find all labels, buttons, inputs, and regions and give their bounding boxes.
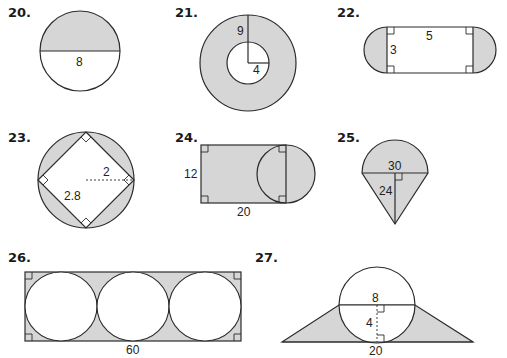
chord-label: 8 [372, 291, 379, 305]
circle-1 [25, 272, 97, 341]
rectangle-fill [201, 145, 286, 203]
circle-2 [97, 272, 169, 341]
problem-20: 20. 8 [8, 5, 120, 91]
problem-21: 21. 9 4 [175, 5, 296, 111]
problem-number: 22. [337, 5, 360, 20]
shaded-semicircle [40, 11, 120, 51]
geometry-figures: 20. 8 21. 9 4 22. 5 3 23. 2 2.8 [0, 0, 507, 358]
inner-radius-label: 4 [253, 63, 260, 77]
width-label: 20 [237, 205, 251, 219]
height-label: 4 [366, 316, 373, 330]
left-semicircle [364, 27, 387, 73]
circle-3 [169, 272, 241, 341]
problem-number: 26. [8, 250, 31, 265]
diameter-label: 8 [76, 55, 83, 69]
problem-number: 27. [255, 250, 278, 265]
problem-number: 24. [175, 130, 198, 145]
problem-27: 27. 8 4 20 [255, 250, 473, 358]
problem-23: 23. 2 2.8 [8, 130, 134, 228]
side-label: 2.8 [64, 189, 81, 203]
problem-25: 25. 30 24 [337, 130, 428, 224]
problem-number: 20. [8, 5, 31, 20]
radius-label: 2 [103, 165, 110, 179]
length-label: 5 [426, 29, 433, 43]
base-label: 20 [369, 344, 383, 358]
problem-number: 21. [175, 5, 198, 20]
problem-22: 22. 5 3 [337, 5, 496, 73]
height-label: 12 [184, 167, 198, 181]
outer-radius-label: 9 [237, 24, 244, 38]
problem-24: 24. 12 20 [175, 130, 315, 219]
length-label: 60 [126, 343, 140, 357]
problem-number: 23. [8, 130, 31, 145]
height-label: 24 [379, 184, 393, 198]
width-label: 3 [390, 43, 397, 57]
problem-number: 25. [337, 130, 360, 145]
right-semicircle [473, 27, 496, 73]
diameter-label: 30 [388, 159, 402, 173]
semicircle-fill [286, 145, 315, 203]
problem-26: 26. 60 [8, 250, 241, 357]
